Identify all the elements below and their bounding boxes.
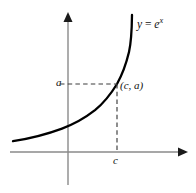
x-value-label: c bbox=[113, 155, 118, 166]
y-axis-arrowhead bbox=[64, 12, 73, 22]
exponential-function-graph: a c (c, a) y = ex bbox=[0, 0, 196, 193]
curve-equation-label: y = ex bbox=[137, 17, 163, 30]
exponential-curve bbox=[13, 15, 132, 141]
x-axis-arrowhead bbox=[178, 148, 188, 157]
equation-exponent-x: x bbox=[159, 16, 163, 25]
equation-equals-sign: = bbox=[142, 18, 154, 30]
point-coordinate-label: (c, a) bbox=[120, 80, 143, 91]
y-value-label: a bbox=[56, 77, 62, 88]
graph-canvas bbox=[0, 0, 196, 193]
